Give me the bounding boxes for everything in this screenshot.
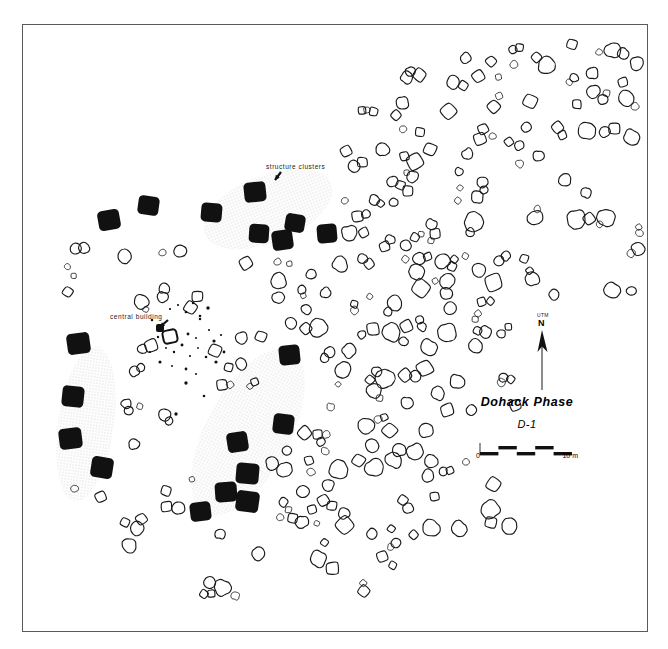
legend-title: Dohack Phase: [452, 395, 602, 409]
figure-page: structure clusters central building UTM …: [0, 0, 668, 649]
scale-bar-labels: 0 10 m: [474, 452, 578, 464]
central-building-label: central building: [110, 313, 163, 320]
legend-block: Dohack Phase D-1: [452, 395, 602, 430]
scale-min-label: 0: [476, 452, 480, 459]
legend-subtitle: D-1: [452, 418, 602, 430]
scale-max-label: 10 m: [562, 452, 578, 459]
scale-segment-3: [535, 446, 553, 449]
structure-clusters-label: structure clusters: [266, 163, 325, 170]
north-arrow-glyph: [528, 312, 572, 394]
north-direction-label: N: [538, 318, 545, 328]
scale-segment-1: [498, 446, 516, 449]
north-arrow: UTM N: [528, 312, 572, 394]
